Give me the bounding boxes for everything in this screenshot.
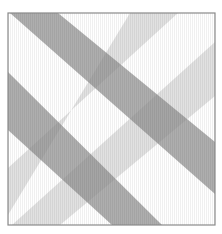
bands-group xyxy=(8,13,215,225)
plaid-pattern xyxy=(0,0,222,234)
texture-hatch xyxy=(8,13,215,225)
